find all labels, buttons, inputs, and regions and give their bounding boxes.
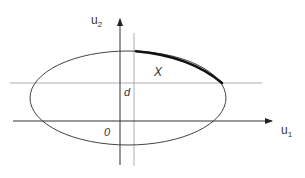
region-label-x: X — [153, 65, 163, 79]
u1-axis-label: u1 — [281, 123, 293, 139]
highlighted-arc — [136, 51, 222, 83]
offset-label-d: d — [124, 86, 131, 98]
origin-label: 0 — [104, 126, 111, 138]
u2-axis-label: u2 — [91, 13, 103, 29]
ellipse — [30, 51, 226, 145]
ellipse-diagram: u2 u1 X d 0 — [0, 0, 305, 178]
